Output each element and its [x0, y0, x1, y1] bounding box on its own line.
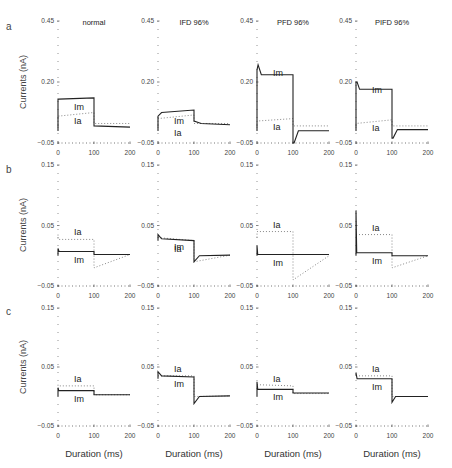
x-tick-label: 0: [255, 432, 259, 439]
y-tick-label: −0.05: [138, 422, 155, 429]
y-axis-label: Currents (nA): [18, 340, 28, 394]
im-trace: [356, 210, 428, 255]
y-axis-label: Currents (nA): [18, 55, 28, 109]
y-tick-label: −0.05: [336, 282, 353, 289]
im-label: Im: [273, 258, 283, 268]
x-tick-label: 100: [387, 432, 398, 439]
panel-b-3: 0.150.05−0.050100200ImIa: [237, 161, 335, 298]
x-tick-label: 100: [288, 149, 299, 156]
x-tick-label: 200: [125, 149, 136, 156]
ia-label: Ia: [74, 116, 82, 126]
y-tick-label: 0.20: [240, 78, 253, 85]
x-tick-label: 100: [89, 149, 100, 156]
y-tick-label: 0.05: [339, 363, 352, 370]
panel-a-2: 0.450.20−0.050100200IFD 96%ImIa: [138, 17, 236, 155]
im-label: Im: [174, 379, 184, 389]
y-tick-label: 0.15: [339, 161, 352, 168]
y-tick-label: 0.15: [339, 304, 352, 311]
y-tick-label: 0.05: [240, 222, 253, 229]
y-tick-label: −0.05: [38, 139, 55, 146]
x-axis-label: Duration (ms): [264, 448, 322, 459]
x-tick-label: 0: [354, 292, 358, 299]
x-tick-label: 0: [156, 149, 160, 156]
x-tick-label: 100: [288, 432, 299, 439]
x-tick-label: 100: [89, 432, 100, 439]
y-tick-label: −0.05: [237, 282, 254, 289]
x-tick-label: 200: [324, 292, 335, 299]
row-label: c: [6, 306, 11, 317]
x-tick-label: 100: [89, 292, 100, 299]
ia-label: Ia: [372, 364, 380, 374]
y-tick-label: −0.05: [138, 139, 155, 146]
im-label: Im: [273, 68, 283, 78]
im-label: Im: [174, 116, 184, 126]
im-trace: [356, 82, 428, 138]
y-tick-label: −0.05: [237, 422, 254, 429]
ia-label: Ia: [372, 223, 380, 233]
ia-label: Ia: [74, 374, 82, 384]
x-tick-label: 100: [387, 149, 398, 156]
y-tick-label: 0.05: [141, 363, 154, 370]
panel-b-4: 0.150.05−0.050100200ImIa: [336, 161, 434, 298]
im-trace: [158, 372, 230, 404]
x-tick-label: 0: [255, 149, 259, 156]
x-axis-label: Duration (ms): [65, 448, 123, 459]
x-tick-label: 200: [225, 149, 236, 156]
x-tick-label: 200: [423, 432, 434, 439]
x-tick-label: 100: [387, 292, 398, 299]
ia-label: Ia: [273, 374, 281, 384]
panel-title: normal: [83, 18, 106, 27]
x-tick-label: 100: [288, 292, 299, 299]
y-tick-label: 0.15: [141, 304, 154, 311]
ia-trace: [356, 235, 428, 268]
x-tick-label: 0: [56, 292, 60, 299]
y-tick-label: 0.45: [240, 17, 253, 24]
ia-trace: [257, 232, 329, 280]
row-label: a: [6, 21, 12, 32]
ia-label: Ia: [273, 220, 281, 230]
ia-label: Ia: [74, 227, 82, 237]
x-tick-label: 200: [423, 292, 434, 299]
row-a: aCurrents (nA)0.450.20−0.050100200normal…: [6, 17, 434, 155]
im-trace: [257, 382, 329, 397]
im-trace: [158, 110, 230, 131]
im-trace: [58, 98, 130, 131]
x-tick-label: 200: [125, 432, 136, 439]
panel-a-1: 0.450.20−0.050100200normalImIa: [38, 17, 136, 155]
x-tick-label: 200: [125, 292, 136, 299]
y-tick-label: 0.15: [41, 161, 54, 168]
x-tick-label: 0: [56, 432, 60, 439]
y-tick-label: 0.05: [240, 363, 253, 370]
y-tick-label: −0.05: [336, 422, 353, 429]
panel-a-4: 0.450.20−0.050100200PIFD 96%ImIa: [336, 17, 434, 155]
im-trace: [58, 388, 130, 397]
y-tick-label: 0.20: [141, 78, 154, 85]
x-tick-label: 100: [189, 149, 200, 156]
ia-label: Ia: [273, 122, 281, 132]
y-tick-label: 0.05: [41, 363, 54, 370]
x-axis-label: Duration (ms): [363, 448, 421, 459]
y-tick-label: 0.20: [339, 78, 352, 85]
y-tick-label: −0.05: [237, 139, 254, 146]
y-tick-label: 0.45: [41, 17, 54, 24]
im-label: Im: [372, 85, 382, 95]
y-tick-label: −0.05: [38, 282, 55, 289]
x-tick-label: 200: [324, 149, 335, 156]
x-tick-label: 0: [354, 432, 358, 439]
im-label: Im: [273, 392, 283, 402]
panel-c-2: 0.150.05−0.050100200ImIa: [138, 304, 236, 438]
y-tick-label: 0.45: [339, 17, 352, 24]
x-axis-label: Duration (ms): [165, 448, 223, 459]
y-tick-label: 0.05: [141, 222, 154, 229]
y-tick-label: 0.15: [240, 304, 253, 311]
y-tick-label: −0.05: [336, 139, 353, 146]
panel-c-4: 0.150.05−0.050100200ImIa: [336, 304, 434, 438]
x-tick-label: 100: [189, 432, 200, 439]
x-tick-label: 200: [225, 292, 236, 299]
x-tick-label: 0: [156, 292, 160, 299]
y-tick-label: 0.15: [141, 161, 154, 168]
x-tick-label: 0: [56, 149, 60, 156]
panel-c-3: 0.150.05−0.050100200ImIa: [237, 304, 335, 438]
row-c: cCurrents (nA)0.150.05−0.050100200ImIa0.…: [6, 304, 434, 438]
panel-title: PIFD 96%: [375, 18, 410, 27]
